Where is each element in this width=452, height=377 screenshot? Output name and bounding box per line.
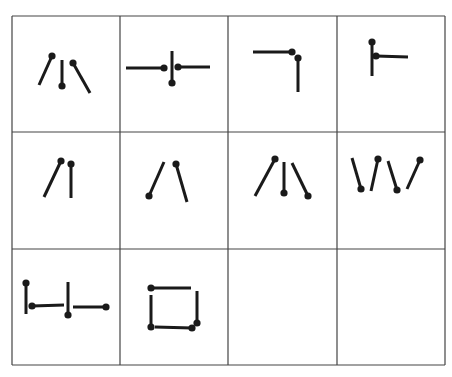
matchstick-icon xyxy=(39,52,56,85)
matchstick-icon xyxy=(73,303,110,310)
matchstick-icon xyxy=(145,162,164,200)
puzzle-cell-r3c1 xyxy=(22,279,109,318)
matchstick-icon xyxy=(147,284,191,291)
matchstick-icon xyxy=(147,295,154,331)
matchstick-icon xyxy=(58,60,65,90)
puzzle-cell-r2c1 xyxy=(44,157,75,198)
puzzle-cell-r2c4 xyxy=(352,155,424,193)
matchstick-icon xyxy=(44,157,65,197)
matchstick-icon xyxy=(371,155,382,191)
matchstick-icon xyxy=(372,52,408,59)
matchstick-puzzle-grid xyxy=(0,0,452,377)
matchstick-icon xyxy=(174,63,210,70)
matchstick-icon xyxy=(69,59,90,93)
matchstick-icon xyxy=(280,162,287,197)
puzzle-cell-r1c1 xyxy=(39,52,90,93)
matchstick-icon xyxy=(292,163,312,200)
puzzle-cell-r1c3 xyxy=(253,48,302,92)
matchstick-icon xyxy=(168,51,175,87)
matchstick-icon xyxy=(126,64,168,71)
puzzle-cell-r1c4 xyxy=(368,38,408,76)
matchstick-icon xyxy=(294,54,301,92)
matchstick-icon xyxy=(64,282,71,319)
puzzle-cell-r2c3 xyxy=(255,155,312,199)
matchstick-icon xyxy=(28,302,64,309)
matchstick-icon xyxy=(255,155,279,196)
matchstick-icon xyxy=(407,156,424,189)
matchstick-icon xyxy=(67,160,74,198)
puzzle-cells xyxy=(22,38,423,331)
matchstick-icon xyxy=(172,160,187,202)
puzzle-cell-r3c2 xyxy=(147,284,200,331)
matchstick-icon xyxy=(352,158,365,193)
matchstick-icon xyxy=(253,48,296,55)
matchstick-icon xyxy=(388,161,401,194)
matchstick-icon xyxy=(22,279,29,314)
matchstick-icon xyxy=(155,324,196,331)
matchstick-icon xyxy=(193,291,200,327)
puzzle-cell-r2c2 xyxy=(145,160,187,202)
puzzle-cell-r1c2 xyxy=(126,51,210,87)
